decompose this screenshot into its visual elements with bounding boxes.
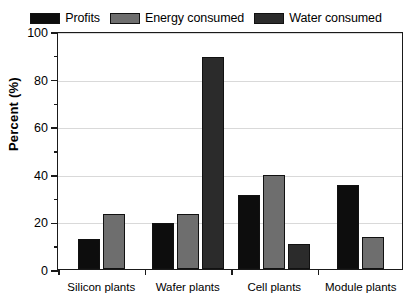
- x-axis-category-label: Module plants: [325, 281, 397, 293]
- plot-area: 020406080100Silicon plantsWafer plantsCe…: [57, 32, 403, 270]
- x-axis-category-label: Cell plants: [247, 281, 301, 293]
- legend-swatch-icon: [30, 13, 60, 24]
- y-axis-tick-major: [51, 80, 58, 82]
- x-axis-tick: [231, 269, 233, 275]
- bar-chart: ProfitsEnergy consumedWater consumed Per…: [0, 0, 412, 300]
- y-axis-tick-major: [51, 270, 58, 272]
- bar: [263, 175, 285, 269]
- bar: [202, 57, 224, 269]
- chart-legend: ProfitsEnergy consumedWater consumed: [0, 10, 412, 26]
- y-axis-label: 40: [34, 169, 48, 183]
- gridline: [58, 33, 402, 34]
- legend-swatch-icon: [254, 13, 284, 24]
- y-axis-label: 80: [34, 74, 48, 88]
- bar: [78, 239, 100, 269]
- x-axis-category-label: Silicon plants: [67, 281, 135, 293]
- y-axis-tick-minor: [54, 199, 58, 200]
- bar: [362, 237, 384, 269]
- x-axis-tick: [145, 269, 147, 275]
- x-axis-category-label: Wafer plants: [156, 281, 220, 293]
- x-axis-tick: [318, 269, 320, 275]
- y-axis-tick-minor: [54, 56, 58, 57]
- y-axis-tick-minor: [54, 151, 58, 152]
- legend-entry[interactable]: Profits: [30, 11, 100, 25]
- y-axis-tick-major: [51, 127, 58, 129]
- x-axis-tick: [58, 269, 60, 275]
- y-axis-label: 60: [34, 121, 48, 135]
- legend-label: Water consumed: [289, 11, 382, 25]
- legend-entry[interactable]: Energy consumed: [110, 11, 244, 25]
- bar: [337, 185, 359, 269]
- y-axis-tick-major: [51, 32, 58, 34]
- bar: [177, 214, 199, 269]
- y-axis-label: 20: [34, 216, 48, 230]
- bar: [288, 244, 310, 269]
- gridline: [58, 128, 402, 129]
- gridline: [58, 81, 402, 82]
- y-axis-title: Percent (%): [6, 77, 21, 151]
- legend-swatch-icon: [110, 13, 140, 24]
- legend-label: Energy consumed: [145, 11, 244, 25]
- y-axis-label: 100: [27, 26, 48, 40]
- y-axis-tick-minor: [54, 104, 58, 105]
- gridline: [58, 176, 402, 177]
- bar: [238, 195, 260, 269]
- y-axis-tick-major: [51, 223, 58, 225]
- bar: [152, 223, 174, 269]
- y-axis-tick-minor: [54, 246, 58, 247]
- legend-entry[interactable]: Water consumed: [254, 11, 382, 25]
- y-axis-label: 0: [41, 264, 48, 278]
- legend-label: Profits: [65, 11, 100, 25]
- bar: [103, 214, 125, 269]
- y-axis-tick-major: [51, 175, 58, 177]
